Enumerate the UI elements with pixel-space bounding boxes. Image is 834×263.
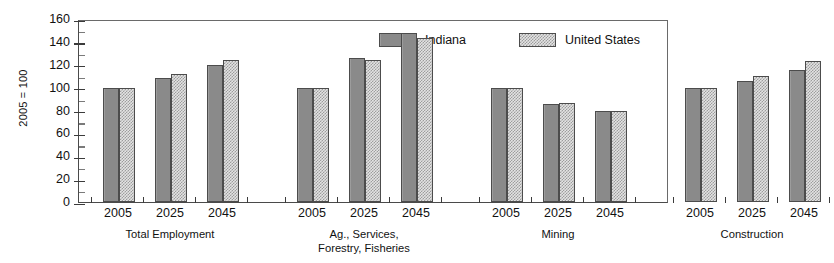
x-tick [777,197,778,203]
group-label-mining: Mining [460,228,656,242]
x-year-label-2005: 2005 [482,206,530,220]
bar-construction-2025-indiana [737,81,753,202]
plot-area: Indiana United States [78,20,668,203]
x-tick [247,197,248,203]
legend-label-united-states: United States [565,33,640,47]
x-year-label-2005: 2005 [676,206,724,220]
bar-construction-2045-indiana [789,70,805,202]
x-year-label-2005: 2005 [288,206,336,220]
x-year-label-2025: 2025 [728,206,776,220]
y-minor-tick-mark [79,78,85,79]
y-tick-mark [74,158,85,159]
y-tick-label-0: 0 [28,195,70,209]
y-minor-tick-mark [79,169,85,170]
y-tick-label-140: 140 [28,35,70,49]
x-year-label-2045: 2045 [392,206,440,220]
x-tick [389,197,390,203]
group-label-construction: Construction [654,228,834,242]
x-tick [285,197,286,203]
bar-construction-2005-united-states [701,88,717,202]
legend-item-united-states[interactable]: United States [519,33,640,47]
x-year-label-2025: 2025 [340,206,388,220]
bar-construction-2045-united-states [805,61,821,202]
y-tick-mark [74,21,85,22]
x-year-label-2045: 2045 [586,206,634,220]
bar-total-employment-2045-indiana [207,65,223,202]
bar-total-employment-2025-united-states [171,74,187,202]
x-tick [91,197,92,203]
x-year-label-2005: 2005 [94,206,142,220]
x-tick [635,197,636,203]
y-minor-tick-mark [79,32,85,33]
bar-ag-services-forestry-fisheries-2025-united-states [365,60,381,202]
x-tick [725,197,726,203]
x-year-label-2045: 2045 [780,206,828,220]
bar-ag-services-forestry-fisheries-2045-united-states [417,38,433,202]
bar-total-employment-2005-united-states [119,88,135,202]
bar-mining-2005-indiana [491,88,507,202]
y-tick-mark [74,43,85,44]
y-minor-tick-mark [79,55,85,56]
y-minor-tick-mark [79,101,85,102]
x-year-label-2025: 2025 [534,206,582,220]
x-tick [337,197,338,203]
y-tick-mark [74,204,85,205]
bar-mining-2045-indiana [595,111,611,203]
bar-mining-2025-indiana [543,104,559,202]
bar-construction-2005-indiana [685,88,701,202]
x-tick [829,197,830,203]
x-year-label-2025: 2025 [146,206,194,220]
y-tick-mark [74,135,85,136]
y-tick-label-100: 100 [28,81,70,95]
y-tick-mark [74,112,85,113]
x-tick [583,197,584,203]
bar-ag-services-forestry-fisheries-2025-indiana [349,58,365,202]
y-tick-label-80: 80 [28,104,70,118]
group-label-ag-services-forestry-fisheries: Ag., Services, Forestry, Fisheries [266,228,462,255]
y-tick-label-20: 20 [28,172,70,186]
y-tick-label-60: 60 [28,126,70,140]
legend-swatch-united-states [519,33,556,47]
y-minor-tick-mark [79,146,85,147]
y-tick-label-120: 120 [28,58,70,72]
x-tick [673,197,674,203]
y-minor-tick-mark [79,192,85,193]
y-tick-label-160: 160 [28,12,70,26]
x-year-label-2045: 2045 [198,206,246,220]
x-tick [195,197,196,203]
x-tick [531,197,532,203]
y-tick-mark [74,66,85,67]
x-tick [143,197,144,203]
bar-mining-2005-united-states [507,88,523,202]
bar-ag-services-forestry-fisheries-2045-indiana [401,33,417,202]
y-minor-tick-mark [79,123,85,124]
x-tick [441,197,442,203]
group-label-total-employment: Total Employment [72,228,268,242]
x-tick [479,197,480,203]
bar-construction-2025-united-states [753,76,769,202]
y-tick-mark [74,181,85,182]
bar-mining-2025-united-states [559,103,575,203]
bar-mining-2045-united-states [611,111,627,203]
y-tick-mark [74,89,85,90]
bar-total-employment-2005-indiana [103,88,119,202]
bar-ag-services-forestry-fisheries-2005-indiana [297,88,313,202]
bar-total-employment-2025-indiana [155,78,171,202]
bar-total-employment-2045-united-states [223,60,239,202]
y-tick-label-40: 40 [28,149,70,163]
bar-ag-services-forestry-fisheries-2005-united-states [313,88,329,202]
